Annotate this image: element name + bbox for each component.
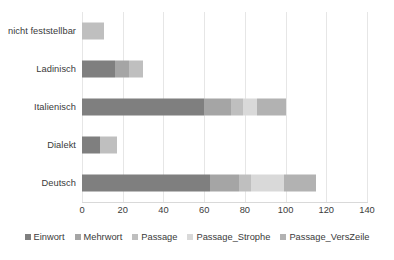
- x-tick-label: 100: [278, 205, 294, 215]
- bar-row: Italienisch: [82, 88, 367, 126]
- stacked-bar: [82, 99, 286, 116]
- legend-item[interactable]: Passage_VersZeile: [280, 232, 369, 242]
- stacked-bar: [82, 61, 143, 78]
- legend-label: Passage_VersZeile: [289, 232, 369, 242]
- bar-segment: [82, 23, 104, 40]
- category-label: Deutsch: [42, 178, 76, 188]
- x-tick-label: 20: [118, 205, 128, 215]
- bar-segment: [82, 99, 204, 116]
- bar-row: nicht feststellbar: [82, 12, 367, 50]
- bar-segment: [284, 175, 317, 192]
- x-tick-label: 0: [79, 205, 84, 215]
- legend-swatch-icon: [280, 234, 286, 240]
- bar-chart: nicht feststellbarLadinischItalienischDi…: [0, 0, 394, 260]
- x-tick-label: 140: [359, 205, 375, 215]
- x-tick-label: 120: [319, 205, 335, 215]
- plot-area: nicht feststellbarLadinischItalienischDi…: [82, 12, 367, 202]
- stacked-bar: [82, 23, 104, 40]
- category-label: Ladinisch: [36, 64, 76, 74]
- bar-row: Dialekt: [82, 126, 367, 164]
- bar-segment: [82, 137, 100, 154]
- legend-swatch-icon: [75, 234, 81, 240]
- chart-legend: EinwortMehrwortPassagePassage_StrophePas…: [0, 232, 394, 242]
- legend-swatch-icon: [25, 234, 31, 240]
- legend-item[interactable]: Passage: [132, 232, 177, 242]
- category-label: Italienisch: [34, 102, 76, 112]
- bar-segment: [231, 99, 243, 116]
- bar-row: Deutsch: [82, 164, 367, 202]
- bar-segment: [243, 99, 257, 116]
- legend-item[interactable]: Einwort: [25, 232, 65, 242]
- legend-label: Passage: [141, 232, 177, 242]
- legend-label: Einwort: [34, 232, 65, 242]
- bar-segment: [129, 61, 143, 78]
- legend-label: Passage_Strophe: [196, 232, 270, 242]
- x-axis-tick-labels: 020406080100120140: [0, 205, 394, 221]
- x-tick-label: 80: [240, 205, 250, 215]
- x-tick-label: 40: [158, 205, 168, 215]
- legend-item[interactable]: Passage_Strophe: [187, 232, 270, 242]
- legend-label: Mehrwort: [84, 232, 123, 242]
- bar-segment: [204, 99, 230, 116]
- category-label: Dialekt: [47, 140, 76, 150]
- bar-segment: [82, 61, 115, 78]
- legend-item[interactable]: Mehrwort: [75, 232, 123, 242]
- bar-row: Ladinisch: [82, 50, 367, 88]
- bar-segment: [251, 175, 284, 192]
- stacked-bar: [82, 137, 117, 154]
- bar-segment: [210, 175, 239, 192]
- stacked-bar: [82, 175, 316, 192]
- bar-segment: [100, 137, 116, 154]
- legend-swatch-icon: [187, 234, 193, 240]
- bar-segment: [115, 61, 129, 78]
- bar-segment: [82, 175, 210, 192]
- gridline-140: [367, 12, 368, 202]
- x-tick-label: 60: [199, 205, 209, 215]
- legend-swatch-icon: [132, 234, 138, 240]
- category-label: nicht feststellbar: [8, 26, 76, 36]
- bar-segment: [257, 99, 286, 116]
- x-axis-line: [82, 202, 368, 203]
- bar-segment: [239, 175, 251, 192]
